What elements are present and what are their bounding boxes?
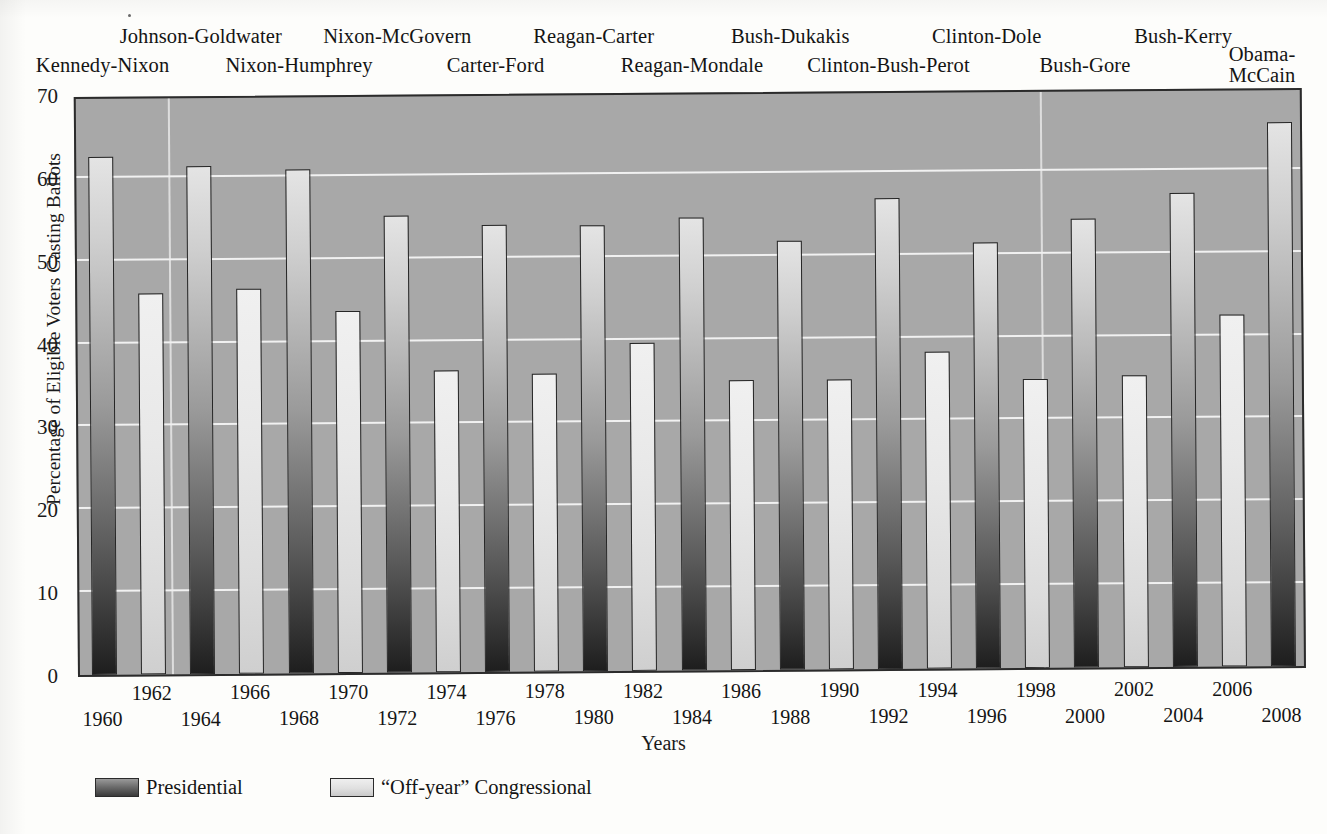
x-tick-1978: 1978	[525, 680, 565, 703]
x-tick-1990: 1990	[819, 679, 859, 702]
legend-label-off: “Off-year” Congressional	[381, 776, 592, 799]
legend-swatch-pres-icon	[95, 778, 139, 797]
scan-artifact-dot	[128, 14, 131, 17]
x-tick-1984: 1984	[672, 706, 712, 729]
bar-1998	[1023, 379, 1050, 668]
x-tick-1964: 1964	[181, 708, 221, 731]
matchup-label-1984: Reagan-Mondale	[621, 54, 764, 77]
bar-1996	[973, 242, 1001, 668]
x-tick-1996: 1996	[967, 705, 1007, 728]
x-tick-1962: 1962	[132, 682, 172, 705]
x-tick-1998: 1998	[1016, 679, 1056, 702]
bar-1988	[777, 240, 805, 669]
x-tick-1972: 1972	[377, 707, 417, 730]
bar-1994	[925, 351, 952, 669]
bar-1976	[482, 225, 510, 672]
x-tick-1970: 1970	[328, 681, 368, 704]
x-tick-1960: 1960	[83, 708, 123, 731]
matchup-label-1972: Nixon-McGovern	[323, 25, 471, 48]
x-tick-1992: 1992	[868, 705, 908, 728]
matchup-label-1980: Reagan-Carter	[533, 25, 654, 48]
bar-1972	[383, 215, 411, 673]
bar-1966	[237, 288, 265, 673]
bar-1984	[678, 217, 706, 670]
bar-1962	[138, 293, 166, 674]
x-axis-title: Years	[0, 732, 1327, 755]
x-tick-2000: 2000	[1065, 705, 1105, 728]
bar-1980	[580, 225, 608, 671]
matchup-label-2008: Obama-McCain	[1202, 44, 1322, 86]
x-tick-1986: 1986	[721, 680, 761, 703]
y-tick-20: 20	[12, 500, 58, 521]
plot-area	[74, 88, 1306, 677]
x-tick-1966: 1966	[230, 681, 270, 704]
bar-1978	[532, 373, 559, 671]
x-tick-2002: 2002	[1114, 678, 1154, 701]
bar-2004	[1169, 193, 1197, 667]
bar-1986	[728, 380, 755, 670]
bar-1960	[88, 157, 117, 675]
matchup-label-1996: Clinton-Dole	[932, 25, 1041, 48]
legend-item-off: “Off-year” Congressional	[330, 776, 592, 799]
bar-2000	[1071, 218, 1099, 667]
x-tick-1976: 1976	[476, 707, 516, 730]
legend-item-pres: Presidential	[95, 776, 243, 799]
chart-legend: Presidential“Off-year” Congressional	[0, 770, 1327, 810]
x-tick-1968: 1968	[279, 707, 319, 730]
bar-1982	[630, 343, 657, 671]
bar-1990	[827, 379, 854, 669]
legend-label-pres: Presidential	[146, 776, 243, 799]
matchup-label-1964: Johnson-Goldwater	[120, 25, 282, 48]
bar-2008	[1267, 123, 1296, 667]
bar-1964	[187, 166, 216, 674]
bar-1974	[434, 370, 461, 673]
y-tick-60: 60	[12, 169, 58, 190]
x-tick-1974: 1974	[426, 681, 466, 704]
x-tick-1982: 1982	[623, 680, 663, 703]
legend-swatch-off-icon	[330, 778, 374, 797]
y-tick-70: 70	[12, 86, 58, 107]
x-tick-1994: 1994	[918, 679, 958, 702]
bar-1968	[285, 170, 314, 674]
y-tick-40: 40	[12, 335, 58, 356]
matchup-label-1968: Nixon-Humphrey	[225, 54, 372, 77]
x-tick-1988: 1988	[770, 706, 810, 729]
x-axis-tick-labels: 1960196219641966196819701972197419761978…	[0, 678, 1327, 738]
matchup-label-1988: Bush-Dukakis	[731, 25, 850, 48]
x-tick-1980: 1980	[574, 706, 614, 729]
y-tick-10: 10	[12, 583, 58, 604]
bar-1992	[874, 198, 902, 670]
matchup-label-2000: Bush-Gore	[1040, 54, 1131, 77]
bar-series-group	[76, 90, 1304, 675]
chart-page: Kennedy-NixonJohnson-GoldwaterNixon-Hump…	[0, 0, 1327, 834]
x-tick-2006: 2006	[1212, 678, 1252, 701]
plot-area-wrapper	[74, 88, 1306, 677]
y-tick-50: 50	[12, 252, 58, 273]
matchup-label-1992: Clinton-Bush-Perot	[807, 54, 969, 77]
x-tick-2008: 2008	[1261, 704, 1301, 727]
bar-2002	[1121, 375, 1148, 668]
bar-2006	[1219, 314, 1247, 666]
matchup-label-1976: Carter-Ford	[447, 54, 544, 77]
election-matchup-annotations: Kennedy-NixonJohnson-GoldwaterNixon-Hump…	[0, 0, 1327, 92]
bar-1970	[335, 311, 363, 673]
y-tick-30: 30	[12, 417, 58, 438]
x-tick-2004: 2004	[1163, 704, 1203, 727]
